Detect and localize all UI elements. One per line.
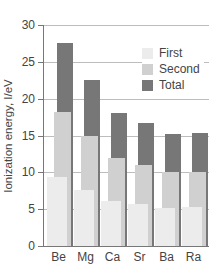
y-tick-label: 25 [13, 56, 35, 68]
legend-swatch-first [142, 48, 153, 59]
y-tick-label: 0 [13, 240, 35, 252]
legend-swatch-second [142, 64, 153, 75]
y-tick-label: 15 [13, 130, 35, 142]
y-tick-mark [38, 172, 43, 173]
legend-label-second: Second [159, 62, 200, 76]
y-tick-label: 20 [13, 93, 35, 105]
y-tick-mark [38, 99, 43, 100]
x-tick-label: Mg [72, 250, 99, 264]
legend-item-second: Second [142, 61, 200, 77]
legend-swatch-total [142, 80, 153, 91]
y-tick-mark [38, 25, 43, 26]
bar-first-mg [74, 190, 94, 246]
y-axis-title: Ionization energy, I/eV [2, 76, 14, 196]
x-tick-label: Ra [180, 250, 207, 264]
bar-first-ca [101, 201, 121, 246]
x-tick-label: Sr [126, 250, 153, 264]
x-tick-label: Be [45, 250, 72, 264]
y-tick-label: 10 [13, 166, 35, 178]
legend-item-first: First [142, 45, 200, 61]
x-tick-label: Ba [153, 250, 180, 264]
gridline [43, 25, 209, 26]
x-tick-label: Ca [99, 250, 126, 264]
bar-first-be [47, 177, 67, 246]
legend-label-total: Total [159, 78, 184, 92]
y-tick-mark [38, 246, 43, 247]
legend-label-first: First [159, 46, 182, 60]
x-axis-line [43, 246, 209, 247]
y-tick-mark [38, 62, 43, 63]
bar-first-ba [155, 208, 175, 246]
bar-first-sr [128, 204, 148, 246]
y-axis-line [43, 25, 44, 247]
y-tick-label: 30 [13, 19, 35, 31]
y-tick-label: 5 [13, 203, 35, 215]
legend-item-total: Total [142, 77, 200, 93]
legend: First Second Total [142, 43, 204, 95]
y-tick-mark [38, 209, 43, 210]
bar-first-ra [182, 207, 202, 246]
y-tick-mark [38, 136, 43, 137]
